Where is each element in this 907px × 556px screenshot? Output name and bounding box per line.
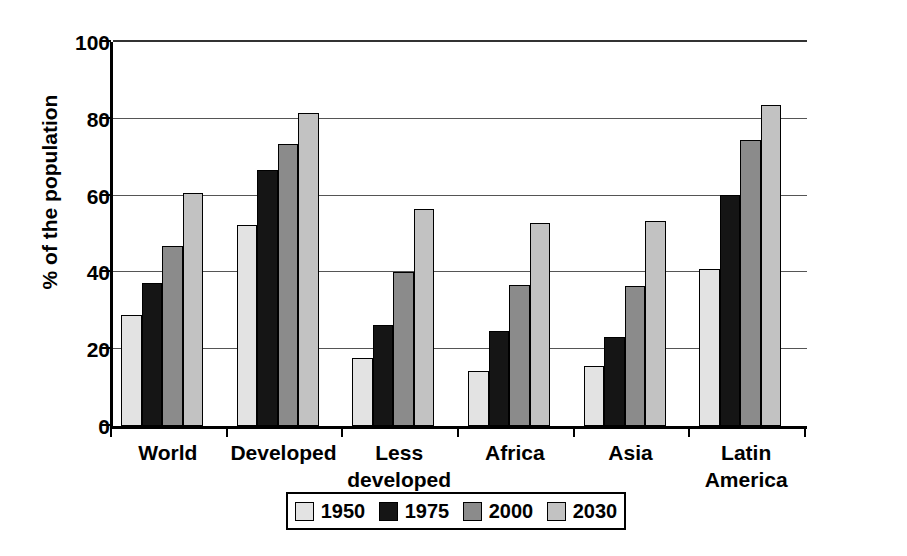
bar-world-1950 [121,315,142,426]
x-separator-end-0 [110,426,112,437]
bar-less-developed-2030 [414,209,435,426]
bar-group-less-developed [344,42,460,426]
legend-swatch-1975 [379,502,398,521]
legend-label-1975: 1975 [405,501,450,521]
bar-latin-america-1975 [720,195,741,426]
legend-swatch-1950 [295,502,314,521]
bar-africa-2000 [509,285,530,426]
legend-swatch-2000 [463,502,482,521]
legend-item-1975[interactable]: 1975 [379,501,450,521]
bar-africa-1975 [489,331,510,426]
bar-developed-2000 [278,144,299,426]
bar-developed-2030 [298,113,319,426]
x-separator-3 [457,426,459,437]
legend-item-1950[interactable]: 1950 [295,501,366,521]
bars-layer [113,42,807,426]
x-separator-2 [341,426,343,437]
legend-label-2000: 2000 [489,501,534,521]
legend-item-2000[interactable]: 2000 [463,501,534,521]
x-label-latin-america: LatinAmerica [670,440,822,494]
legend-label-1950: 1950 [321,501,366,521]
bar-asia-2030 [645,221,666,426]
bar-developed-1950 [237,225,258,426]
x-label-line: developed [323,467,475,494]
x-separator-end-6 [804,426,806,437]
bar-developed-1975 [257,170,278,427]
x-label-line: Latin [670,440,822,467]
bar-group-asia [576,42,692,426]
bar-latin-america-2030 [761,105,782,426]
x-axis-separators [110,426,807,438]
bar-group-world [113,42,229,426]
bar-latin-america-1950 [699,269,720,426]
bar-less-developed-1950 [352,358,373,426]
bar-group-africa [460,42,576,426]
x-separator-1 [226,426,228,437]
bar-africa-1950 [468,371,489,426]
y-axis-tick-labels: 020406080100 [40,42,110,426]
bar-africa-2030 [530,223,551,426]
bar-latin-america-2000 [740,140,761,426]
bar-world-2030 [183,193,204,426]
bar-asia-2000 [625,286,646,426]
bar-group-developed [229,42,345,426]
bar-less-developed-2000 [393,272,414,426]
plot-area [110,42,807,429]
legend-swatch-2030 [547,502,566,521]
bar-chart-figure: % of the population 020406080100 WorldDe… [0,0,907,556]
legend-label-2030: 2030 [573,501,618,521]
x-label-line: America [670,467,822,494]
bar-group-latin-america [691,42,807,426]
bar-world-2000 [162,246,183,426]
x-separator-4 [573,426,575,437]
bar-less-developed-1975 [373,325,394,426]
bar-asia-1950 [584,366,605,426]
legend-item-2030[interactable]: 2030 [547,501,618,521]
x-separator-5 [688,426,690,437]
chart-legend: 1950197520002030 [286,492,626,530]
bar-asia-1975 [604,337,625,426]
bar-world-1975 [142,283,163,426]
